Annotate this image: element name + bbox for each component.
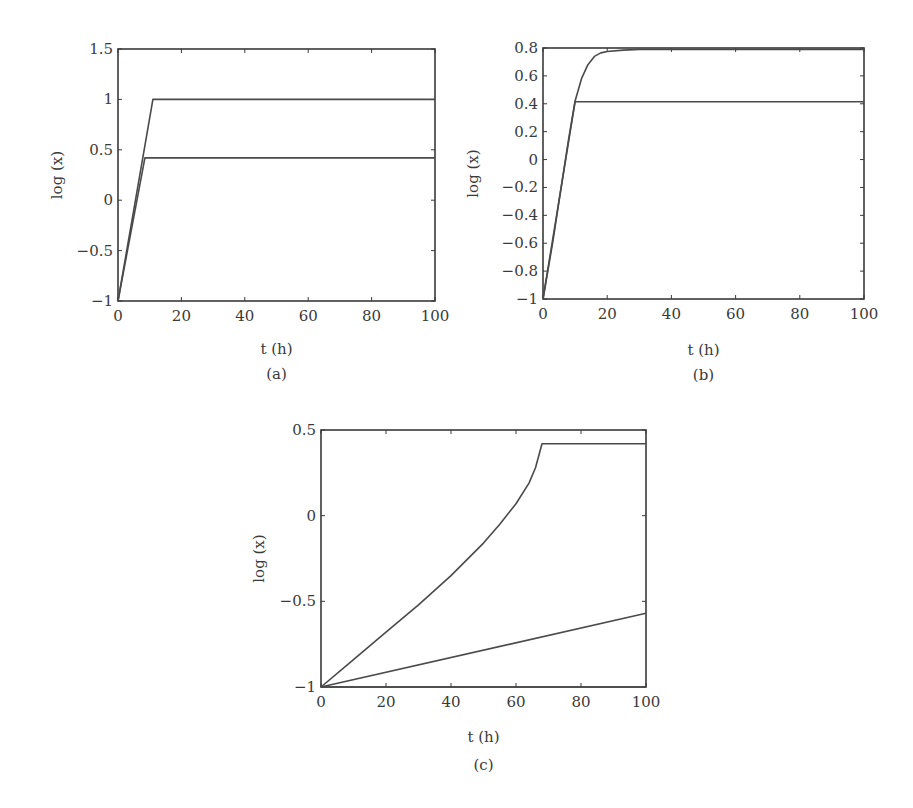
y-tick-label: −0.5 — [280, 592, 316, 610]
y-tick-label: 0.2 — [514, 123, 538, 141]
y-axis-label: log (x) — [250, 534, 268, 582]
series-line-lower — [543, 102, 864, 299]
series-line-upper — [118, 99, 435, 301]
y-tick-label: 1 — [103, 90, 113, 108]
x-tick-label: 100 — [421, 307, 450, 325]
x-tick-label: 40 — [662, 305, 681, 323]
x-tick-label: 100 — [632, 693, 661, 711]
y-tick-label: −0.2 — [502, 178, 538, 196]
y-tick-label: 1.5 — [89, 40, 113, 58]
panel-caption: (c) — [473, 756, 493, 774]
chart-panel-b: 020406080100−1−0.8−0.6−0.4−0.200.20.40.6… — [464, 39, 878, 384]
x-tick-label: 0 — [538, 305, 548, 323]
x-tick-label: 60 — [299, 307, 318, 325]
x-tick-label: 40 — [235, 307, 254, 325]
figure-canvas: 020406080100−1−0.500.511.5t (h)log (x)(a… — [0, 0, 913, 808]
chart-panel-c: 020406080100−1−0.500.5t (h)log (x)(c) — [250, 421, 660, 774]
x-axis-label: t (h) — [260, 340, 292, 358]
y-tick-label: −0.5 — [77, 242, 113, 260]
y-tick-label: 0 — [103, 191, 113, 209]
x-tick-label: 60 — [726, 305, 745, 323]
x-tick-label: 0 — [113, 307, 123, 325]
y-tick-label: 0 — [528, 151, 538, 169]
series-line-lower — [118, 158, 435, 301]
y-tick-label: 0.4 — [514, 95, 538, 113]
x-tick-label: 80 — [571, 693, 590, 711]
x-tick-label: 20 — [376, 693, 395, 711]
x-tick-label: 80 — [362, 307, 381, 325]
y-tick-label: 0.6 — [514, 67, 538, 85]
y-axis-label: log (x) — [48, 151, 66, 199]
x-tick-label: 20 — [172, 307, 191, 325]
y-tick-label: 0.5 — [89, 141, 113, 159]
series-line-upper — [543, 49, 864, 299]
y-axis-label: log (x) — [464, 149, 482, 197]
x-axis-label: t (h) — [467, 728, 499, 746]
panel-caption: (a) — [266, 365, 287, 383]
y-tick-label: −1 — [516, 290, 538, 308]
x-tick-label: 60 — [506, 693, 525, 711]
x-axis-label: t (h) — [687, 341, 719, 359]
plot-frame — [321, 430, 646, 687]
y-tick-label: −1 — [91, 292, 113, 310]
x-tick-label: 80 — [790, 305, 809, 323]
y-tick-label: −0.6 — [502, 234, 538, 252]
figure: 020406080100−1−0.500.511.5t (h)log (x)(a… — [0, 0, 913, 808]
x-tick-label: 40 — [441, 693, 460, 711]
y-tick-label: −0.4 — [502, 206, 538, 224]
y-tick-label: 0.5 — [292, 421, 316, 439]
series-line-middle — [321, 613, 646, 687]
panel-caption: (b) — [693, 366, 714, 384]
y-tick-label: −1 — [294, 678, 316, 696]
chart-panel-a: 020406080100−1−0.500.511.5t (h)log (x)(a… — [48, 40, 449, 383]
x-tick-label: 20 — [598, 305, 617, 323]
plot-frame — [118, 49, 435, 301]
y-tick-label: 0 — [306, 507, 316, 525]
plot-frame — [543, 48, 864, 299]
x-tick-label: 100 — [850, 305, 879, 323]
x-tick-label: 0 — [316, 693, 326, 711]
y-tick-label: −0.8 — [502, 262, 538, 280]
y-tick-label: 0.8 — [514, 39, 538, 57]
